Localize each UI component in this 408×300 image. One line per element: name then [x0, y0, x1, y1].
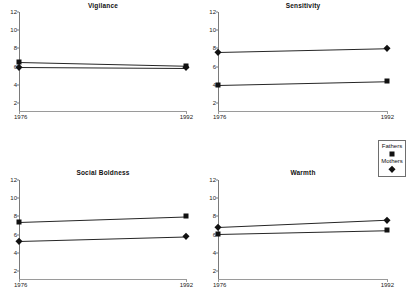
plot-area-vigilance: 2468101219761992	[19, 12, 187, 112]
legend-entry-mothers: Mothers	[381, 158, 403, 173]
series-line-fathers	[218, 230, 387, 235]
y-tick-label: 12	[209, 177, 216, 183]
square-marker-icon	[216, 82, 221, 87]
y-tick-label: 10	[10, 195, 17, 201]
diamond-marker-icon	[16, 238, 22, 244]
x-tick-mark	[186, 112, 187, 114]
y-tick-mark	[216, 30, 218, 31]
x-tick-label: 1976	[213, 282, 226, 288]
x-axis-line	[218, 279, 388, 280]
legend-marker-wrap	[381, 150, 403, 158]
x-tick-label: 1992	[381, 282, 394, 288]
y-tick-mark	[216, 102, 218, 103]
chart-title-vigilance: Vigilance	[0, 2, 206, 9]
y-tick-mark	[17, 216, 19, 217]
series-line-fathers	[19, 216, 186, 222]
series-legend: FathersMothers	[378, 140, 406, 177]
x-tick-label: 1992	[381, 114, 394, 120]
x-tick-mark	[218, 280, 219, 282]
y-tick-mark	[17, 198, 19, 199]
diamond-marker-icon	[215, 224, 221, 230]
legend-entry-fathers: Fathers	[381, 143, 403, 158]
plot-area-warmth: 2468101219761992	[218, 180, 388, 280]
x-axis-line	[19, 279, 187, 280]
y-tick-mark	[17, 12, 19, 13]
x-tick-mark	[387, 280, 388, 282]
diamond-marker-icon	[384, 217, 390, 223]
y-tick-mark	[216, 252, 218, 253]
square-marker-icon	[184, 214, 189, 219]
y-tick-mark	[17, 234, 19, 235]
legend-marker-wrap	[381, 165, 403, 173]
diamond-marker-icon	[215, 49, 221, 55]
chart-panel-social-boldness: Social Boldness2468101219761992	[3, 169, 201, 296]
x-tick-label: 1992	[180, 114, 193, 120]
square-marker-icon	[385, 79, 390, 84]
square-marker-icon	[385, 228, 390, 233]
chart-panel-sensitivity: Sensitivity2468101219761992	[201, 2, 402, 128]
x-axis-line	[19, 111, 187, 112]
x-tick-mark	[186, 280, 187, 282]
y-tick-mark	[216, 12, 218, 13]
square-marker-icon	[216, 231, 221, 236]
x-axis-line	[218, 111, 388, 112]
y-tick-mark	[216, 216, 218, 217]
x-tick-label: 1976	[213, 114, 226, 120]
y-tick-mark	[17, 48, 19, 49]
legend-label-mothers: Mothers	[381, 158, 403, 165]
square-marker-icon	[390, 152, 395, 157]
x-tick-mark	[19, 280, 20, 282]
y-tick-mark	[17, 102, 19, 103]
diamond-marker-icon	[384, 45, 390, 51]
series-line-mothers	[218, 220, 387, 228]
x-tick-mark	[218, 112, 219, 114]
y-tick-label: 10	[209, 195, 216, 201]
diamond-marker-icon	[183, 64, 189, 70]
y-tick-label: 12	[10, 177, 17, 183]
series-line-mothers	[19, 67, 186, 69]
diamond-marker-icon	[183, 233, 189, 239]
y-tick-label: 10	[10, 27, 17, 33]
plot-area-sensitivity: 2468101219761992	[218, 12, 388, 112]
y-tick-mark	[17, 30, 19, 31]
chart-title-warmth: Warmth	[199, 169, 407, 176]
y-tick-mark	[17, 180, 19, 181]
y-axis-line	[218, 12, 219, 112]
y-axis-line	[19, 180, 20, 280]
y-tick-mark	[216, 66, 218, 67]
series-line-mothers	[218, 48, 387, 53]
y-tick-label: 10	[209, 27, 216, 33]
diamond-marker-icon	[389, 166, 395, 172]
chart-panel-warmth: Warmth2468101219761992	[201, 169, 402, 296]
y-tick-mark	[17, 270, 19, 271]
x-tick-label: 1992	[180, 282, 193, 288]
chart-title-social-boldness: Social Boldness	[0, 169, 206, 176]
plot-area-social-boldness: 2468101219761992	[19, 180, 187, 280]
x-tick-mark	[19, 112, 20, 114]
y-tick-label: 12	[209, 9, 216, 15]
y-tick-mark	[216, 270, 218, 271]
legend-label-fathers: Fathers	[381, 143, 403, 150]
y-tick-mark	[17, 252, 19, 253]
x-tick-label: 1976	[14, 114, 27, 120]
y-tick-label: 12	[10, 9, 17, 15]
series-line-fathers	[19, 62, 186, 67]
square-marker-icon	[17, 219, 22, 224]
x-tick-label: 1976	[14, 282, 27, 288]
y-tick-mark	[17, 84, 19, 85]
chart-panel-vigilance: Vigilance2468101219761992	[3, 2, 201, 128]
x-tick-mark	[387, 112, 388, 114]
chart-title-sensitivity: Sensitivity	[199, 2, 407, 9]
series-line-fathers	[218, 81, 387, 86]
series-line-mothers	[19, 236, 186, 242]
y-tick-mark	[216, 198, 218, 199]
y-tick-mark	[216, 180, 218, 181]
